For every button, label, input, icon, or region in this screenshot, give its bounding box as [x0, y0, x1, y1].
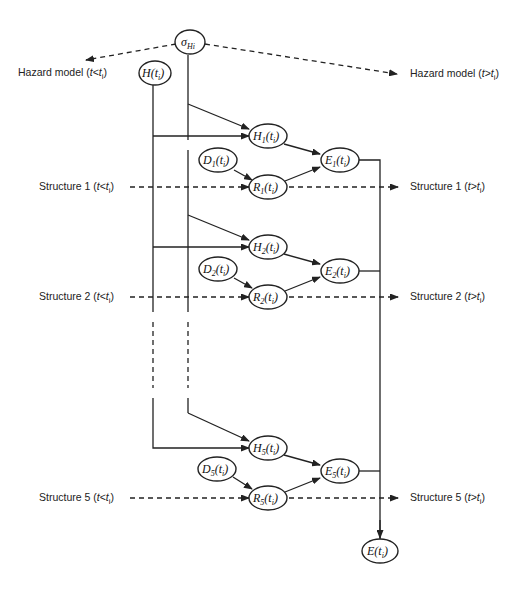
svg-text:Structure 2 (t<ti): Structure 2 (t<ti) [39, 290, 114, 305]
label-structure1-after: Structure 1 (t>ti) [410, 180, 485, 195]
node-H5: H5(ti) [249, 436, 287, 460]
svg-text:H1(ti): H1(ti) [252, 129, 279, 145]
svg-text:E2(ti): E2(ti) [324, 264, 350, 280]
node-H2: H2(ti) [249, 235, 287, 259]
node-sigma: σHi [175, 30, 205, 54]
node-H1: H1(ti) [249, 124, 287, 148]
node-D1: D1(ti) [199, 148, 237, 172]
label-structure2-after: Structure 2 (t>ti) [410, 290, 485, 305]
svg-text:E(ti): E(ti) [366, 544, 388, 560]
bayesian-network-diagram: σHi H(ti) H1(ti) D1(ti) R1(ti) E1(ti) H2… [0, 0, 529, 595]
edge-R5-E5 [285, 478, 320, 492]
node-H: H(ti) [139, 61, 171, 85]
node-R5: R5(ti) [249, 486, 287, 510]
label-structure5-before: Structure 5 (t<ti) [39, 491, 114, 506]
label-hazard-before: Hazard model (t<ti) [18, 66, 107, 81]
edge-H2-E2 [284, 254, 320, 264]
svg-text:Structure 5 (t<ti): Structure 5 (t<ti) [39, 491, 114, 506]
svg-text:D5(ti): D5(ti) [201, 462, 228, 478]
svg-text:Hazard model (t>ti): Hazard model (t>ti) [410, 67, 499, 82]
node-E1: E1(ti) [321, 148, 359, 172]
svg-text:H2(ti): H2(ti) [252, 240, 279, 256]
edge-sigma-H5 [188, 413, 249, 441]
svg-text:H(ti): H(ti) [141, 66, 164, 82]
edge-sigma-H1 [188, 104, 249, 129]
label-structure1-before: Structure 1 (t<ti) [39, 180, 114, 195]
node-D2: D2(ti) [199, 257, 237, 281]
edge-sigma-H2 [188, 215, 249, 240]
label-structure2-before: Structure 2 (t<ti) [39, 290, 114, 305]
edge-H1-E1 [284, 144, 320, 154]
label-hazard-after: Hazard model (t>ti) [410, 67, 499, 82]
svg-text:Structure 1 (t<ti): Structure 1 (t<ti) [39, 180, 114, 195]
edge-D1-R1 [234, 170, 252, 180]
edge-E1-collector [359, 160, 380, 545]
svg-text:Structure 2 (t>ti): Structure 2 (t>ti) [410, 290, 485, 305]
svg-text:R2(ti): R2(ti) [252, 290, 278, 306]
svg-text:H5(ti): H5(ti) [252, 441, 279, 457]
svg-text:Hazard model (t<ti): Hazard model (t<ti) [18, 66, 107, 81]
label-structure5-after: Structure 5 (t>ti) [410, 491, 485, 506]
edge-sigma-hazard-after [205, 44, 397, 74]
svg-text:E1(ti): E1(ti) [324, 153, 350, 169]
svg-text:Structure 1 (t>ti): Structure 1 (t>ti) [410, 180, 485, 195]
svg-text:R5(ti): R5(ti) [252, 491, 278, 507]
node-E-total: E(ti) [362, 539, 398, 563]
node-E2: E2(ti) [321, 259, 359, 283]
edge-sigma-hazard-before [86, 44, 176, 60]
node-E5: E5(ti) [321, 459, 359, 483]
edge-R1-E1 [285, 167, 320, 181]
edge-H5-E5 [284, 455, 320, 465]
svg-text:Structure 5 (t>ti): Structure 5 (t>ti) [410, 491, 485, 506]
edge-D5-R5 [233, 477, 252, 489]
svg-text:D2(ti): D2(ti) [202, 262, 229, 278]
node-R2: R2(ti) [249, 285, 287, 309]
edge-H-H5 [153, 398, 249, 448]
svg-text:E5(ti): E5(ti) [324, 464, 350, 480]
node-R1: R1(ti) [249, 175, 287, 199]
node-D5: D5(ti) [198, 457, 236, 481]
svg-text:R1(ti): R1(ti) [252, 180, 278, 196]
edge-R2-E2 [285, 277, 320, 291]
edge-D2-R2 [234, 278, 252, 288]
svg-text:D1(ti): D1(ti) [202, 153, 229, 169]
